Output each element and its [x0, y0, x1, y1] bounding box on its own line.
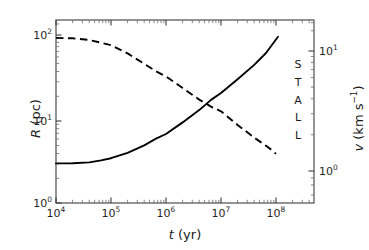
stall-letter-a: A	[290, 92, 306, 110]
x-tick-exp-6: 6	[171, 205, 176, 214]
x-tick-exp-7: 7	[226, 205, 231, 214]
y-axis-left-label: R (pc)	[29, 74, 42, 164]
y-left-tick-exp-2: 2	[47, 27, 52, 36]
stall-letter-l1: L	[290, 109, 306, 127]
y-left-label-unit: (pc)	[28, 99, 43, 125]
x-tick-label-1e4: 104	[36, 208, 76, 219]
y-right-label-unit-close: )	[351, 85, 366, 90]
y-right-tick-exp-0: 0	[333, 163, 338, 172]
y-right-label-unit-exp: −1	[349, 91, 359, 104]
x-tick-label-1e7: 107	[201, 208, 241, 219]
stall-letter-s1: S	[290, 56, 306, 74]
y-axis-right-label: v (km s−1)	[352, 63, 365, 175]
series-R-solid-line	[56, 37, 278, 164]
y-right-label-unit: (km s	[351, 104, 366, 140]
x-axis-major-ticks	[56, 20, 276, 203]
x-axis-label: t (yr)	[56, 228, 314, 241]
y-left-tick-label-1e2: 102	[22, 30, 52, 41]
y-left-major-ticks	[56, 35, 62, 203]
x-label-symbol: t	[169, 227, 174, 242]
y-right-label-symbol: v	[351, 144, 366, 152]
x-tick-exp-5: 5	[116, 205, 121, 214]
y-left-tick-exp-0: 0	[47, 195, 52, 204]
x-label-unit: (yr)	[178, 227, 201, 242]
series-v-dashed-line	[56, 38, 276, 154]
y-right-tick-label-1e1: 101	[319, 46, 353, 57]
y-right-tick-exp-1: 1	[333, 43, 338, 52]
y-right-major-ticks	[309, 51, 315, 171]
y-left-tick-exp-1: 1	[47, 113, 52, 122]
x-axis-minor-ticks	[73, 20, 310, 203]
stall-letter-l2: L	[290, 127, 306, 145]
x-tick-exp-4: 4	[61, 205, 66, 214]
plot-frame	[56, 20, 314, 203]
x-tick-exp-8: 8	[281, 205, 286, 214]
y-left-label-symbol: R	[28, 129, 43, 138]
y-right-tick-label-1e0: 100	[319, 166, 353, 177]
stall-annotation: S T A L L	[290, 56, 306, 145]
x-tick-label-1e5: 105	[91, 208, 131, 219]
figure-canvas: 100 101 102 100 101 104 105 106 107 108 …	[0, 0, 369, 250]
stall-letter-t: T	[290, 74, 306, 92]
x-tick-label-1e6: 106	[146, 208, 186, 219]
x-tick-label-1e8: 108	[256, 208, 296, 219]
